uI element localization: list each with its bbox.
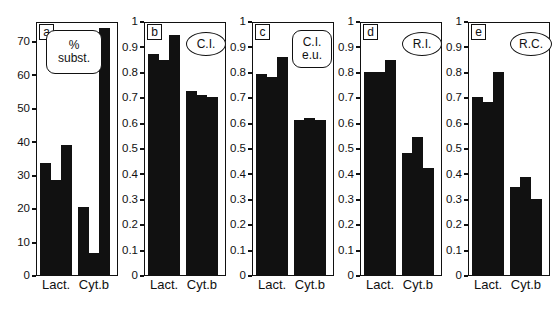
bar <box>493 72 504 275</box>
bar <box>531 199 542 275</box>
panel-e-callout-label: R.C. <box>510 32 552 56</box>
panel-a-callout-label: %subst. <box>46 30 102 74</box>
bar <box>304 118 315 275</box>
y-tick-label: 0.6 <box>446 118 464 130</box>
bar <box>186 91 197 275</box>
callout-line: subst. <box>58 52 90 65</box>
bar-group-lact <box>256 23 288 275</box>
y-tick-label: 0.4 <box>446 169 464 181</box>
bar <box>402 153 413 275</box>
bar <box>374 72 385 275</box>
y-tick-label: 0.6 <box>338 118 356 130</box>
y-tick-label: 0.9 <box>122 42 140 54</box>
bar <box>315 120 326 275</box>
bar-group-cytb <box>402 23 434 275</box>
y-tick-label: 0.4 <box>230 169 248 181</box>
y-tick-label: 0.5 <box>230 143 248 155</box>
y-tick-label: 1 <box>456 16 464 28</box>
y-tick-label: 0.9 <box>230 42 248 54</box>
x-label-cytb: Cyt.b <box>180 278 224 292</box>
bar <box>169 35 180 275</box>
bar <box>364 72 375 275</box>
panel-b-plot-area <box>144 22 226 276</box>
y-tick-label: 40 <box>17 137 32 149</box>
y-tick-label: 0.3 <box>338 194 356 206</box>
panel-letter-c: c <box>255 24 270 40</box>
y-tick-label: 0.7 <box>122 92 140 104</box>
bar <box>423 168 434 275</box>
y-tick-label: 0.6 <box>230 118 248 130</box>
y-tick-label: 0.7 <box>446 92 464 104</box>
callout-line: C.I. <box>197 38 216 51</box>
bar <box>520 177 531 275</box>
y-tick-label: 0.8 <box>230 67 248 79</box>
panel-d-plot-area <box>360 22 442 276</box>
bars-layer <box>469 23 549 275</box>
bar <box>482 102 493 275</box>
y-tick-label: 1 <box>348 16 356 28</box>
y-tick-label: 0.7 <box>338 92 356 104</box>
y-tick-label: 30 <box>17 170 32 182</box>
bar <box>277 57 288 275</box>
bar-group-lact <box>364 23 396 275</box>
bar <box>385 60 396 275</box>
y-tick-label: 1 <box>240 16 248 28</box>
bar-group-cytb <box>186 23 218 275</box>
y-tick-label: 0.4 <box>338 169 356 181</box>
y-tick-label: 0.3 <box>122 194 140 206</box>
y-tick-label: 0.3 <box>446 194 464 206</box>
x-label-cytb: Cyt.b <box>504 278 548 292</box>
y-tick-label: 0.2 <box>338 219 356 231</box>
panel-e-x-labels: Lact.Cyt.b <box>442 278 554 298</box>
bar <box>40 163 51 275</box>
bar <box>88 253 99 275</box>
y-tick-label: 0.7 <box>230 92 248 104</box>
x-label-cytb: Cyt.b <box>72 278 116 292</box>
x-label-cytb: Cyt.b <box>396 278 440 292</box>
y-tick-label: 0.5 <box>338 143 356 155</box>
panel-a-y-axis: 010203040506070 <box>0 22 36 276</box>
bar-group-lact <box>472 23 504 275</box>
y-tick-label: 0.6 <box>122 118 140 130</box>
bar <box>196 95 207 275</box>
y-tick-label: 0.1 <box>338 245 356 257</box>
bar <box>266 77 277 275</box>
callout-line: R.I. <box>413 38 432 51</box>
callout-line: e.u. <box>302 49 322 62</box>
y-tick-label: 0.1 <box>122 245 140 257</box>
panel-d-y-axis: 00.10.20.30.40.50.60.70.80.91 <box>334 22 360 276</box>
bar <box>61 145 72 275</box>
y-tick-label: 0.1 <box>230 245 248 257</box>
y-tick-label: 70 <box>17 36 32 48</box>
bar <box>50 180 61 275</box>
panel-d-callout-label: R.I. <box>402 32 442 56</box>
y-tick-label: 1 <box>132 16 140 28</box>
bar <box>207 97 218 275</box>
bar <box>510 187 521 275</box>
panel-a: 010203040506070a%subst.Lact.Cyt.b <box>0 0 118 312</box>
y-tick-label: 0.8 <box>338 67 356 79</box>
panel-d-x-labels: Lact.Cyt.b <box>334 278 442 298</box>
bar <box>78 207 89 276</box>
y-tick-label: 0.2 <box>122 219 140 231</box>
panel-c-callout-label: C.I.e.u. <box>292 30 332 68</box>
bars-layer <box>361 23 441 275</box>
y-tick-label: 60 <box>17 70 32 82</box>
y-tick-label: 0.9 <box>446 42 464 54</box>
y-tick-label: 0.2 <box>446 219 464 231</box>
bar-group-lact <box>148 23 180 275</box>
panel-letter-e: e <box>471 24 486 40</box>
y-tick-label: 50 <box>17 103 32 115</box>
bar-group-cytb <box>510 23 542 275</box>
panel-e: 00.10.20.30.40.50.60.70.80.91eR.C.Lact.C… <box>442 0 554 312</box>
y-tick-label: 0.4 <box>122 169 140 181</box>
bar <box>294 120 305 275</box>
panel-c-x-labels: Lact.Cyt.b <box>226 278 334 298</box>
panel-a-x-labels: Lact.Cyt.b <box>0 278 118 298</box>
panel-b-callout-label: C.I. <box>186 32 226 56</box>
callout-line: R.C. <box>519 38 543 51</box>
y-tick-label: 20 <box>17 203 32 215</box>
panel-b-x-labels: Lact.Cyt.b <box>118 278 226 298</box>
y-tick-label: 0.5 <box>122 143 140 155</box>
bars-layer <box>145 23 225 275</box>
